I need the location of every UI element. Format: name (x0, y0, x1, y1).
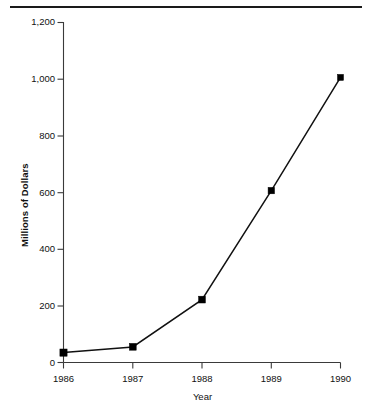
x-axis-title: Year (160, 391, 245, 402)
data-point-1989 (268, 187, 274, 193)
data-point-1988 (199, 296, 206, 303)
x-tick-label-1989: 1989 (261, 374, 282, 384)
figure-container: 1,200 1,000 800 600 400 200 0 1986 1987 … (0, 0, 370, 406)
x-tick-label-1988: 1988 (191, 374, 212, 384)
data-point-1987 (129, 343, 136, 350)
y-tick-label-0: 0 (8, 358, 55, 368)
y-tick-label-1200: 1,200 (8, 17, 55, 27)
y-tick-label-200: 200 (8, 301, 55, 311)
x-tick-label-1986: 1986 (53, 374, 74, 384)
y-axis-title: Millions of Dollars (19, 163, 30, 247)
line-chart: 1,200 1,000 800 600 400 200 0 1986 1987 … (0, 0, 370, 406)
y-tick-label-800: 800 (8, 131, 55, 141)
y-axis-ticks (58, 23, 64, 363)
data-point-markers (60, 74, 344, 356)
y-tick-label-1000: 1,000 (8, 74, 55, 84)
y-tick-label-400: 400 (8, 244, 55, 254)
y-tick-label-600: 600 (8, 188, 55, 198)
data-series-line (64, 77, 341, 352)
x-axis-ticks (64, 363, 341, 369)
data-point-1990 (338, 74, 344, 80)
chart-plot-svg (0, 0, 370, 406)
x-tick-label-1990: 1990 (330, 374, 351, 384)
x-tick-label-1987: 1987 (122, 374, 143, 384)
data-point-1986 (60, 349, 67, 356)
